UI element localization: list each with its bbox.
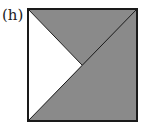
square-diagram [0, 0, 142, 125]
